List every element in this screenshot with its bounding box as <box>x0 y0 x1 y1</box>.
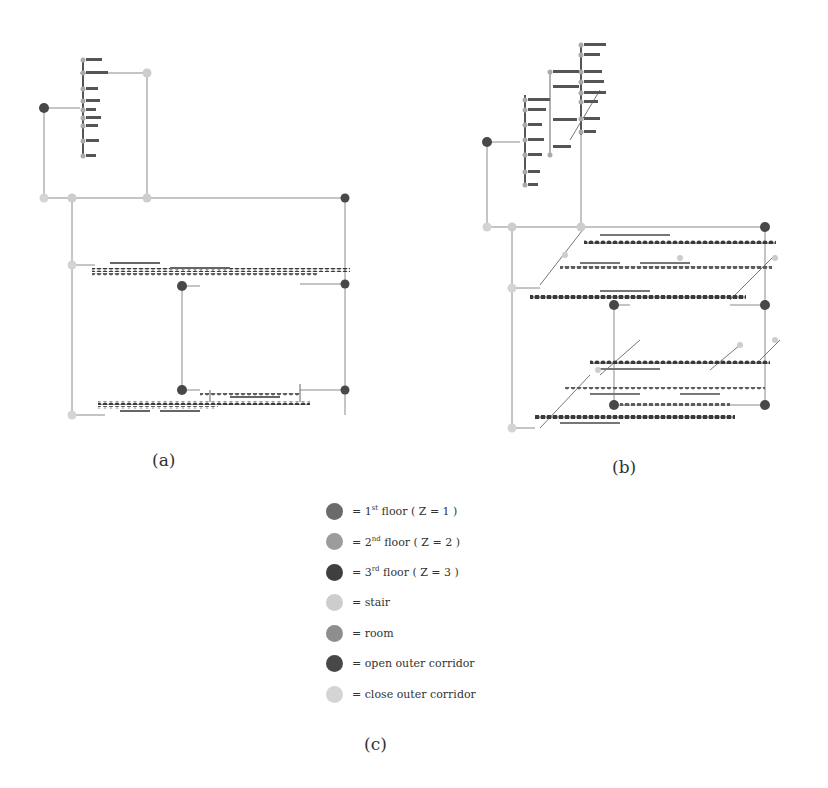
legend-item-open-outer-corridor: = open outer corridor <box>326 649 476 680</box>
open-corridor-node <box>609 400 619 410</box>
legend-swatch-1st-floor <box>326 503 343 520</box>
stair-node <box>737 342 743 348</box>
open-corridor-node <box>482 137 492 147</box>
diagram-b-chains <box>523 43 777 425</box>
legend-swatch-stair <box>326 594 343 611</box>
stair-node <box>68 194 77 203</box>
open-corridor-node <box>341 280 350 289</box>
legend-swatch-close-outer-corridor <box>326 686 343 703</box>
caption-b: (b) <box>612 457 636 477</box>
legend-item-stair: = stair <box>326 588 476 619</box>
legend-label: = 2nd floor ( Z = 2 ) <box>352 535 460 549</box>
legend-item-close-outer-corridor: = close outer corridor <box>326 679 476 710</box>
legend-item-2nd-floor: = 2nd floor ( Z = 2 ) <box>326 527 476 558</box>
legend-swatch-open-outer-corridor <box>326 655 343 672</box>
close-corridor-node <box>40 194 49 203</box>
close-corridor-node <box>68 261 77 270</box>
diagram-a <box>44 58 345 415</box>
open-corridor-node <box>341 386 350 395</box>
open-corridor-node <box>760 222 770 232</box>
open-corridor-node <box>341 194 350 203</box>
open-corridor-node <box>177 385 187 395</box>
open-corridor-node <box>177 281 187 291</box>
open-corridor-node <box>760 400 770 410</box>
legend-label: = 1st floor ( Z = 1 ) <box>352 504 457 518</box>
stair-node <box>143 69 152 78</box>
close-corridor-node <box>508 424 517 433</box>
open-corridor-node <box>39 103 49 113</box>
legend-label: = open outer corridor <box>352 657 475 670</box>
diagram-a-chains <box>81 58 351 413</box>
diagram-b <box>487 45 780 428</box>
open-corridor-node <box>760 300 770 310</box>
caption-a: (a) <box>152 450 175 470</box>
stair-node <box>143 194 152 203</box>
stair-node <box>577 223 586 232</box>
stair-node <box>772 337 778 343</box>
legend-swatch-3rd-floor <box>326 564 343 581</box>
open-corridor-node <box>609 300 619 310</box>
legend-swatch-2nd-floor <box>326 533 343 550</box>
legend-item-1st-floor: = 1st floor ( Z = 1 ) <box>326 496 476 527</box>
legend-label: = room <box>352 627 394 640</box>
caption-c: (c) <box>364 734 387 754</box>
legend-label: = close outer corridor <box>352 688 476 701</box>
stair-node <box>508 223 517 232</box>
close-corridor-node <box>508 284 517 293</box>
legend-item-room: = room <box>326 618 476 649</box>
legend-label: = stair <box>352 596 390 609</box>
close-corridor-node <box>483 223 492 232</box>
stair-node <box>595 367 601 373</box>
legend-label: = 3rd floor ( Z = 3 ) <box>352 565 459 579</box>
stair-node <box>772 255 778 261</box>
legend-item-3rd-floor: = 3rd floor ( Z = 3 ) <box>326 557 476 588</box>
legend-swatch-room <box>326 625 343 642</box>
stair-node <box>677 255 683 261</box>
legend: = 1st floor ( Z = 1 )= 2nd floor ( Z = 2… <box>326 496 476 710</box>
diagram-a-nodes <box>39 69 350 420</box>
close-corridor-node <box>68 411 77 420</box>
stair-node <box>562 252 568 258</box>
